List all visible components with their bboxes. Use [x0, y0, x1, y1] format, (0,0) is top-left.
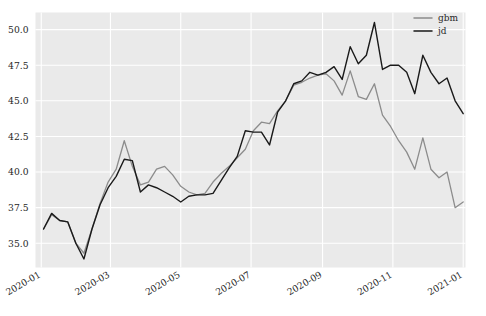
y-tick-label: 50.0 — [8, 24, 29, 35]
plot-area-background — [36, 13, 466, 268]
y-tick-label: 35.0 — [8, 238, 29, 249]
line-chart-figure: 35.037.540.042.545.047.550.0 2020-012020… — [0, 0, 486, 316]
y-tick-label: 45.0 — [8, 95, 29, 106]
y-tick-label: 37.5 — [8, 202, 29, 213]
legend-label-gbm: gbm — [438, 13, 459, 23]
y-tick-label: 40.0 — [8, 166, 29, 177]
y-tick-label: 42.5 — [8, 131, 29, 142]
y-tick-label: 47.5 — [8, 60, 29, 71]
chart-container: 35.037.540.042.545.047.550.0 2020-012020… — [0, 0, 486, 316]
legend-label-jd: jd — [437, 26, 447, 36]
